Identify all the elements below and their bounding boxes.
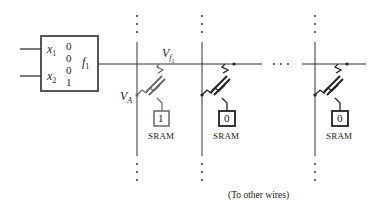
continuation-dots-top: [136, 15, 316, 33]
routing-diagram: [0, 0, 383, 209]
truth-value: 1: [66, 76, 72, 88]
sram-label: SRAM: [213, 131, 239, 141]
truth-value: 0: [66, 52, 72, 64]
ellipsis-dots: [273, 63, 289, 65]
sram-label: SRAM: [148, 131, 174, 141]
continuation-dots-bottom: [136, 163, 316, 181]
truth-value: 0: [66, 40, 72, 52]
voltage-label-va: VA: [120, 90, 132, 105]
truth-value: 0: [66, 64, 72, 76]
input-label-x2: x2: [47, 70, 56, 85]
input-label-x1: x1: [47, 43, 56, 58]
sram-bit: 0: [224, 112, 230, 124]
pass-transistor-3: [315, 64, 343, 111]
caption: (To other wires): [228, 190, 289, 200]
output-label-f1: f1: [82, 56, 89, 71]
sram-bit: 1: [158, 112, 164, 124]
pass-transistor-1: [137, 64, 165, 111]
sram-bit: 0: [337, 112, 343, 124]
pass-transistor-2: [202, 64, 230, 111]
voltage-label-vf1: Vf1: [162, 47, 175, 64]
sram-label: SRAM: [326, 131, 352, 141]
